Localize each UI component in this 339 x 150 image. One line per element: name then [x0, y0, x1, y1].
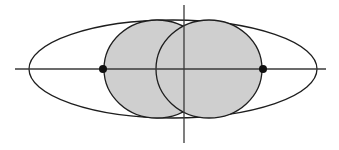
- right-point: [259, 65, 267, 73]
- diagram-canvas: [0, 0, 339, 150]
- left-point: [99, 65, 107, 73]
